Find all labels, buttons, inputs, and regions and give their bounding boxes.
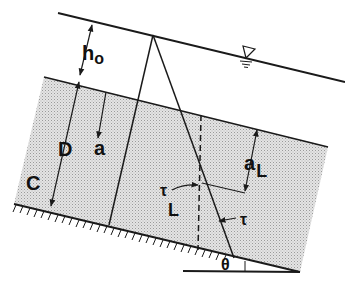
label-C: C [26,172,40,194]
label-a: a [94,137,106,159]
label-tauL: τ [160,182,167,199]
free-surface-line [58,13,345,82]
label-D: D [58,138,72,160]
diagram-canvas: ho D a C aL τ L τ θ [0,0,345,287]
stippled-layer [14,77,328,272]
label-theta: θ [221,256,230,273]
horizontal-reference-line [183,271,300,272]
label-h0: ho [82,42,104,67]
label-tauL-sub: L [168,200,179,220]
label-tau: τ [240,211,247,228]
